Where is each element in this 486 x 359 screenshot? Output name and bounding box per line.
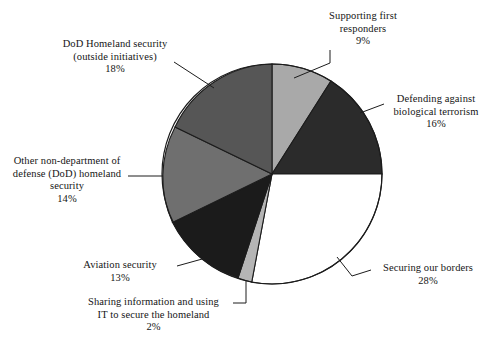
label-line-2: defense (DoD) homeland <box>13 168 121 179</box>
leader-line-dod-homeland-security <box>174 62 214 88</box>
label-percent: 9% <box>305 35 421 48</box>
label-line-1: DoD Homeland security <box>63 38 168 49</box>
label-percent: 28% <box>373 275 483 288</box>
label-line-2: IT to secure the homeland <box>98 309 210 320</box>
pie-chart: Supporting first responders 9% Defending… <box>0 0 486 359</box>
slice-label-aviation-security: Aviation security 13% <box>66 259 174 284</box>
slice-label-securing-our-borders: Securing our borders 28% <box>373 262 483 287</box>
label-percent: 18% <box>50 63 180 76</box>
slice-label-sharing-information-and-using-it: Sharing information and using IT to secu… <box>76 296 231 334</box>
slice-label-other-non-dod-homeland-security: Other non-department of defense (DoD) ho… <box>8 155 126 205</box>
label-line-1: Defending against <box>397 93 475 104</box>
label-percent: 13% <box>66 272 174 285</box>
label-percent: 14% <box>8 193 126 206</box>
label-line-1: Sharing information and using <box>88 296 219 307</box>
label-line-3: security <box>50 180 84 191</box>
label-line-1: Other non-department of <box>14 155 121 166</box>
slice-label-dod-homeland-security: DoD Homeland security (outside initiativ… <box>50 38 180 76</box>
leader-line-defending-against-biological-terrorism <box>360 104 384 113</box>
label-line-2: responders <box>340 23 387 34</box>
label-line-2: biological terrorism <box>393 106 478 117</box>
leader-line-securing-our-borders <box>337 257 371 276</box>
pie-slice-securing-our-borders[interactable] <box>252 174 382 284</box>
label-line-1: Supporting first <box>329 10 397 21</box>
label-line-2: (outside initiatives) <box>73 51 156 62</box>
label-percent: 2% <box>76 321 231 334</box>
leader-line-sharing-information-and-using-it <box>233 281 246 303</box>
label-percent: 16% <box>386 118 486 131</box>
label-line-1: Securing our borders <box>383 262 473 273</box>
label-line-1: Aviation security <box>83 259 157 270</box>
slice-label-supporting-first-responders: Supporting first responders 9% <box>305 10 421 48</box>
slice-label-defending-against-biological-terrorism: Defending against biological terrorism 1… <box>386 93 486 131</box>
